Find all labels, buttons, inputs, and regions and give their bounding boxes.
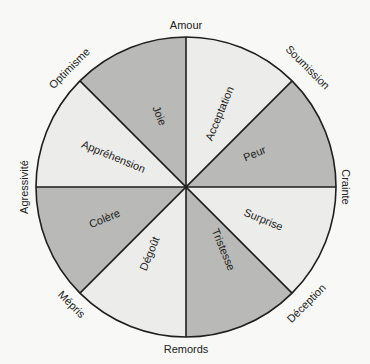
outer-label-agressivite: Agressivité — [18, 160, 30, 214]
outer-label-amour: Amour — [170, 19, 203, 31]
sector-dividers — [36, 37, 336, 337]
outer-label-crainte: Crainte — [340, 169, 352, 204]
outer-label-remords: Remords — [164, 343, 209, 355]
emotion-wheel: Acceptation Peur Surprise Tristesse Dégo… — [0, 0, 370, 364]
